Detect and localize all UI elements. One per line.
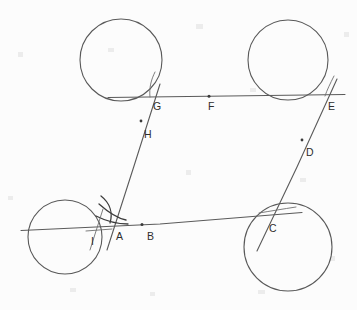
point-dot-H (140, 120, 143, 123)
point-label-group: A B C D E F G H I (91, 100, 335, 247)
segment-A-B-C (21, 213, 302, 231)
paper-texture (8, 24, 349, 296)
whisker-E (325, 76, 334, 96)
circle-group (28, 19, 332, 291)
point-label-D: D (306, 146, 314, 158)
point-dot-B (141, 223, 144, 226)
point-label-E: E (328, 100, 335, 112)
point-label-I: I (91, 235, 94, 247)
tangent-whiskers (150, 72, 334, 213)
point-dot-D (301, 139, 304, 142)
point-label-G: G (153, 100, 161, 112)
point-label-B: B (147, 230, 154, 242)
tick-mark-short (86, 229, 112, 231)
arc-mark-lower (99, 204, 126, 220)
geometric-diagram-canvas: A B C D E F G H I (0, 0, 357, 310)
construction-drawing: A B C D E F G H I (0, 0, 357, 310)
segment-group (21, 79, 345, 251)
point-label-A: A (116, 230, 123, 242)
point-label-F: F (208, 100, 214, 112)
circle-top-right (248, 20, 328, 100)
point-label-H: H (144, 128, 152, 140)
point-dot-F (208, 95, 211, 98)
point-label-C: C (269, 222, 277, 234)
